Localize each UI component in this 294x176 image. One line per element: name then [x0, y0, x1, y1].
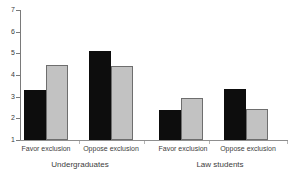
y-tick-mark-5: [16, 53, 20, 54]
y-tick-label-1: 1: [1, 136, 15, 143]
bar-law-oppose-black: [224, 89, 246, 140]
y-tick-label-7: 7: [1, 6, 15, 13]
group-label-undergraduates: Undergraduates: [10, 160, 150, 169]
y-tick-mark-1: [16, 140, 20, 141]
y-tick-label-5: 5: [1, 49, 15, 56]
x-tick-mark-3: [287, 141, 288, 144]
group-label-law-students: Law students: [150, 160, 290, 169]
x-tick-mark-2: [209, 141, 210, 144]
bar-undergrad-favor-black: [24, 90, 46, 140]
bar-undergrad-oppose-gray: [111, 66, 133, 140]
y-tick-label-4: 4: [1, 71, 15, 78]
y-tick-label-6: 6: [1, 28, 15, 35]
x-tick-mark-0: [79, 141, 80, 144]
bar-undergrad-oppose-black: [89, 51, 111, 140]
category-label-3: Oppose exclusion: [202, 145, 294, 153]
y-tick-mark-2: [16, 118, 20, 119]
bar-chart: 7 6 5 4 3 2 1 Favor exclusion Oppose exc…: [0, 0, 294, 176]
y-tick-mark-7: [16, 10, 20, 11]
bar-law-favor-gray: [181, 98, 203, 140]
bar-law-oppose-gray: [246, 109, 268, 140]
y-tick-mark-3: [16, 97, 20, 98]
y-tick-mark-6: [16, 32, 20, 33]
x-tick-mark-1: [144, 141, 145, 144]
y-tick-label-2: 2: [1, 114, 15, 121]
y-tick-label-3: 3: [1, 93, 15, 100]
x-axis-line: [20, 140, 288, 141]
bar-law-favor-black: [159, 110, 181, 140]
y-tick-mark-4: [16, 75, 20, 76]
y-axis-line: [20, 10, 21, 141]
bar-undergrad-favor-gray: [46, 65, 68, 140]
